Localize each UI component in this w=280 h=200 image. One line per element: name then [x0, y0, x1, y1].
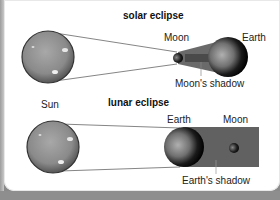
sun-label: Sun	[41, 99, 59, 110]
light-ray	[55, 64, 177, 81]
sun-icon	[27, 121, 79, 173]
solar-shadow-label: Moon's shadow	[175, 78, 245, 89]
sun-flare	[58, 160, 64, 164]
earth-icon	[208, 37, 248, 77]
solar-eclipse-title: solar eclipse	[123, 10, 184, 21]
lunar-moon-label: Moon	[223, 114, 248, 125]
solar-moon-label: Moon	[164, 32, 189, 43]
sun-flare	[39, 134, 42, 136]
sun-flare	[52, 70, 58, 74]
sun-flare	[67, 137, 73, 141]
lunar-earth-label: Earth	[167, 114, 191, 125]
moon-icon	[173, 53, 183, 63]
lunar-eclipse-title: lunar eclipse	[108, 97, 170, 108]
sun-icon	[22, 31, 74, 83]
eclipse-diagram: solar eclipse Moon Earth Moon's shadow S…	[0, 0, 280, 200]
sun-flare	[62, 48, 68, 52]
solar-earth-label: Earth	[242, 32, 266, 43]
lunar-shadow-label: Earth's shadow	[182, 175, 251, 186]
light-ray	[60, 124, 180, 128]
earth-icon	[164, 127, 204, 167]
moon-icon	[229, 143, 239, 153]
light-ray	[60, 167, 180, 171]
sun-flare	[32, 46, 35, 48]
lunar-eclipse-group: lunar eclipse Earth Moon Earth's shadow	[27, 97, 259, 186]
solar-eclipse-group: solar eclipse Moon Earth Moon's shadow	[22, 10, 266, 89]
